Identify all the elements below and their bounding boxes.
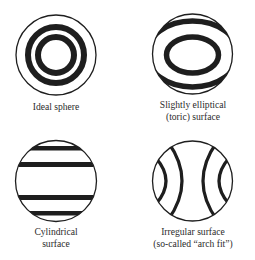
ideal-sphere-label: Ideal sphere (6, 101, 106, 113)
cylindrical-surface-label: Cylindrical surface (6, 226, 106, 250)
toric-surface-map (147, 14, 239, 94)
toric-surface-label: Slightly elliptical (toric) surface (137, 99, 249, 123)
topography-diagram (0, 0, 255, 260)
irregular-surface-map (153, 141, 233, 221)
cylindrical-surface-map (10, 141, 110, 222)
ideal-sphere-map (16, 15, 96, 95)
irregular-surface-label: Irregular surface (so-called “arch fit”) (132, 226, 254, 250)
